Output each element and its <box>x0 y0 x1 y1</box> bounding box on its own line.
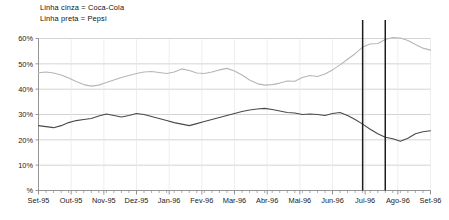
y-axis-label: 40% <box>18 85 33 94</box>
x-axis-label: Abr-96 <box>256 196 278 205</box>
x-axis-label: Out-95 <box>60 196 83 205</box>
x-axis-label: Ago-96 <box>386 196 410 205</box>
x-axis-label: Jun-96 <box>321 196 344 205</box>
y-axis-label: 20% <box>18 136 33 145</box>
x-axis-label: Nov-95 <box>92 196 116 205</box>
x-axis-label: Fev-96 <box>190 196 213 205</box>
chart-legend: Linha cinza = Coca-Cola Linha preta = Pe… <box>40 3 124 24</box>
chart-canvas: %10%20%30%40%50%60%Set-95Out-95Nov-95Dez… <box>0 0 449 220</box>
legend-entry-pepsi: Linha preta = Pepsi <box>40 14 124 25</box>
x-axis-label: Dez-95 <box>125 196 149 205</box>
y-axis-label: 10% <box>18 161 33 170</box>
x-axis-label: Mai-96 <box>289 196 312 205</box>
y-axis-label: 50% <box>18 60 33 69</box>
y-axis-label: % <box>26 186 33 195</box>
x-axis-label: Set-96 <box>420 196 442 205</box>
x-axis-label: Set-95 <box>28 196 50 205</box>
legend-entry-coca-cola: Linha cinza = Coca-Cola <box>40 3 124 14</box>
x-axis-label: Jul-96 <box>355 196 375 205</box>
y-axis-label: 30% <box>18 110 33 119</box>
market-share-chart: Linha cinza = Coca-Cola Linha preta = Pe… <box>0 0 449 220</box>
x-axis-label: Jan-96 <box>158 196 181 205</box>
y-axis-label: 60% <box>18 34 33 43</box>
x-axis-label: Mar-96 <box>223 196 246 205</box>
